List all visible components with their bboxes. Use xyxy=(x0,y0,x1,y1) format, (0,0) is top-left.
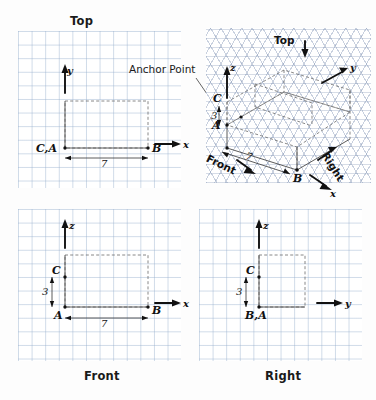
right-view-dimension-3: 3 xyxy=(236,286,242,297)
right-view-y-axis-label: y xyxy=(345,298,351,309)
right-view-z-axis-label: z xyxy=(263,220,269,231)
technical-drawing-page: Top y x C,A B 7 Anchor Point xyxy=(0,0,376,400)
right-view-point-c-label: C xyxy=(246,264,255,277)
right-view-geometry xyxy=(0,0,376,400)
right-view-point-ba-label: B,A xyxy=(245,309,267,322)
right-view-title: Right xyxy=(265,369,301,383)
